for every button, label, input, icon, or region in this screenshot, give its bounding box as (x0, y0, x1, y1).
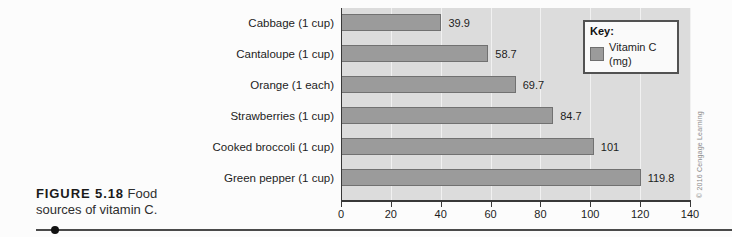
x-tick-mark (690, 202, 691, 207)
category-label: Green pepper (1 cup) (224, 172, 334, 184)
figure-5-18: Cabbage (1 cup)Cantaloupe (1 cup)Orange … (0, 0, 732, 237)
bar (342, 76, 516, 93)
x-tick-label: 100 (581, 208, 599, 220)
category-label: Strawberries (1 cup) (230, 110, 334, 122)
bar-value-label: 119.8 (648, 172, 675, 184)
category-axis: Cabbage (1 cup)Cantaloupe (1 cup)Orange … (0, 8, 341, 200)
bar-value-label: 69.7 (523, 79, 544, 91)
bar-value-label: 101 (601, 141, 619, 153)
bar (342, 14, 441, 31)
legend-title: Key: (590, 25, 672, 38)
x-tick-label: 40 (435, 208, 447, 220)
x-tick-label: 120 (631, 208, 649, 220)
bar-value-label: 84.7 (560, 110, 581, 122)
category-label: Cabbage (1 cup) (248, 17, 334, 29)
bar (342, 138, 594, 155)
bar (342, 169, 641, 186)
legend: Key: Vitamin C (mg) (583, 20, 679, 74)
figure-number: FIGURE 5.18 (36, 186, 124, 201)
x-tick-label: 0 (338, 208, 344, 220)
x-tick-mark (341, 202, 342, 207)
bar-value-label: 39.9 (448, 17, 469, 29)
category-label: Orange (1 each) (250, 79, 334, 91)
legend-entry: Vitamin C (mg) (590, 40, 672, 68)
x-tick-mark (491, 202, 492, 207)
x-tick-label: 80 (534, 208, 546, 220)
figure-caption: FIGURE 5.18 Food sources of vitamin C. (36, 186, 198, 217)
x-tick-label: 60 (484, 208, 496, 220)
x-tick-mark (441, 202, 442, 207)
bar (342, 107, 553, 124)
bottom-rule (36, 229, 732, 231)
x-tick-label: 140 (681, 208, 699, 220)
x-tick-mark (540, 202, 541, 207)
x-axis: 020406080100120140 (341, 200, 690, 224)
category-label: Cooked broccoli (1 cup) (213, 141, 334, 153)
gridline (690, 8, 691, 200)
x-tick-label: 20 (385, 208, 397, 220)
bar (342, 45, 488, 62)
bar-value-label: 58.7 (495, 48, 516, 60)
x-tick-mark (640, 202, 641, 207)
legend-swatch (590, 47, 604, 61)
x-tick-mark (590, 202, 591, 207)
legend-entry-label: Vitamin C (mg) (609, 40, 672, 68)
category-label: Cantaloupe (1 cup) (236, 48, 334, 60)
copyright-credit: © 2016 Cengage Learning (696, 111, 703, 198)
x-tick-mark (391, 202, 392, 207)
rule-dot (51, 226, 59, 234)
